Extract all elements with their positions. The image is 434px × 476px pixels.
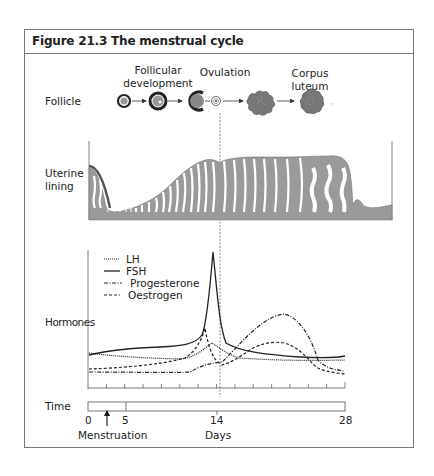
- developing-follicle-icon: [150, 93, 166, 109]
- x-axis-ticks: [106, 382, 345, 388]
- corpus-luteum-icon: [300, 89, 324, 114]
- hormone-curves: [89, 252, 345, 374]
- fsh-curve: [89, 252, 345, 358]
- follicle-sequence: [118, 89, 334, 116]
- oestrogen-curve: [89, 328, 345, 374]
- uterine-lining-panel: [89, 141, 392, 220]
- forming-corpus-luteum-icon: [247, 91, 275, 115]
- menstruation-arrow-icon: [104, 410, 110, 426]
- hormones-axes: [88, 250, 345, 389]
- diagram-graphics: [0, 0, 434, 476]
- progesterone-curve: [89, 314, 345, 372]
- ovum-icon: [212, 97, 221, 106]
- legend-swatches: [104, 259, 122, 295]
- ruptured-follicle-icon: [190, 92, 204, 110]
- endometrium-shape: [89, 156, 392, 220]
- time-bar: [88, 402, 345, 426]
- primary-follicle-icon: [118, 95, 130, 107]
